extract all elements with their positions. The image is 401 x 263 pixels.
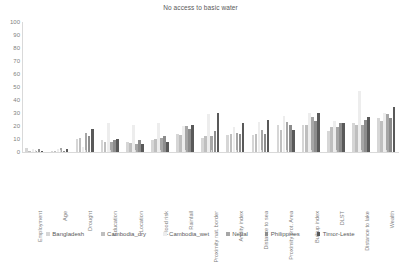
chart-title: No access to basic water (0, 4, 401, 11)
bar-group (377, 22, 395, 152)
legend-swatch (226, 232, 230, 236)
y-axis-tick-60: 60 (2, 71, 20, 77)
x-axis-tickmark (311, 150, 312, 153)
x-axis-tickmark (361, 150, 362, 153)
bar (166, 142, 169, 152)
bar (292, 130, 295, 152)
legend-swatch (265, 232, 269, 236)
x-axis-tickmark (236, 150, 237, 153)
legend-label: Philippines (271, 231, 300, 237)
x-axis-tickmark (336, 150, 337, 153)
bar (116, 139, 119, 152)
legend-label: Nepal (232, 231, 248, 237)
legend-label: Cambodia_dry (107, 231, 146, 237)
y-axis-tick-30: 30 (2, 110, 20, 116)
bar-group (327, 22, 345, 152)
bar (66, 149, 69, 152)
legend-label: Timor-Leste (323, 231, 355, 237)
x-axis-tick-labels: EmploymentAgeDroughtEducationLocationFlo… (22, 153, 399, 215)
bar-group (226, 22, 244, 152)
bar (393, 107, 396, 153)
legend-item[interactable]: Nepal (226, 231, 248, 237)
x-axis-tickmark (110, 150, 111, 153)
y-axis-tick-40: 40 (2, 97, 20, 103)
bar-group (76, 22, 94, 152)
bar-group (126, 22, 144, 152)
y-axis-line (22, 22, 23, 152)
legend-item[interactable]: Philippines (265, 231, 300, 237)
y-axis-tick-90: 90 (2, 32, 20, 38)
legend-label: Cambodia_wet (169, 231, 209, 237)
x-axis-tickmark (211, 150, 212, 153)
y-axis-tick-labels: 0102030405060708090100 (0, 22, 20, 152)
bar (242, 123, 245, 152)
bar-group (252, 22, 270, 152)
x-axis-tickmark (185, 150, 186, 153)
x-axis-tickmark (60, 150, 61, 153)
bar (191, 125, 194, 152)
y-axis-tick-100: 100 (2, 19, 20, 25)
bar-group (25, 22, 43, 152)
legend-item[interactable]: Cambodia_wet (163, 231, 209, 237)
legend-swatch (46, 232, 50, 236)
y-axis-tick-80: 80 (2, 45, 20, 51)
x-axis-tick-label: DLST (339, 211, 345, 225)
plot-area (22, 22, 399, 152)
legend-item[interactable]: Cambodia_dry (101, 231, 146, 237)
legend-swatch (317, 232, 321, 236)
x-axis-tickmark (35, 150, 36, 153)
bar-group (151, 22, 169, 152)
bar (317, 113, 320, 152)
bar-group (176, 22, 194, 152)
x-axis-tick-label: Age (62, 211, 68, 221)
bar-group (277, 22, 295, 152)
bar (141, 144, 144, 152)
legend-item[interactable]: Bangladesh (46, 231, 84, 237)
y-axis-tick-0: 0 (2, 149, 20, 155)
x-axis-tickmark (261, 150, 262, 153)
x-axis-tickmark (85, 150, 86, 153)
y-axis-tick-10: 10 (2, 136, 20, 142)
bar (367, 117, 370, 152)
bar-group (51, 22, 69, 152)
bar (342, 123, 345, 152)
bar (41, 151, 44, 152)
chart-legend: BangladeshCambodia_dryCambodia_wetNepalP… (0, 228, 401, 240)
y-axis-tick-50: 50 (2, 84, 20, 90)
bar-group (352, 22, 370, 152)
legend-swatch (163, 232, 167, 236)
bar-group (302, 22, 320, 152)
legend-item[interactable]: Timor-Leste (317, 231, 355, 237)
x-axis-tick-label: Rainfall (188, 211, 194, 230)
x-axis-tick-label: Wealth (389, 211, 395, 228)
x-axis-tickmark (286, 150, 287, 153)
bar (91, 129, 94, 152)
bar-group (101, 22, 119, 152)
legend-label: Bangladesh (52, 231, 84, 237)
y-axis-tick-20: 20 (2, 123, 20, 129)
x-axis-tickmark (386, 150, 387, 153)
bar (217, 113, 220, 152)
bar (267, 120, 270, 153)
x-axis-tickmark (135, 150, 136, 153)
y-axis-tick-70: 70 (2, 58, 20, 64)
x-axis-tickmark (160, 150, 161, 153)
legend-swatch (101, 232, 105, 236)
bar-group (201, 22, 219, 152)
